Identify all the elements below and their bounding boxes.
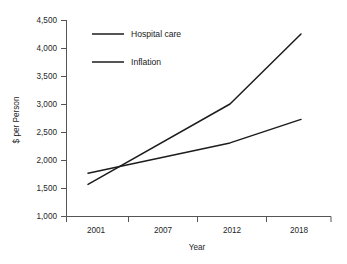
legend-label-inflation: Inflation [131,57,161,67]
series-line-inflation [88,119,301,173]
line-chart: 4,500 4,000 3,500 3,000 2,500 2,000 1,50… [0,0,347,264]
x-axis-ticks [67,217,332,223]
series-line-hospital-care [88,34,301,184]
y-tick-label: 2,000 [37,156,58,165]
x-axis-title: Year [189,243,206,252]
y-tick-label: 4,500 [37,16,58,25]
y-axis-title: $ per Person [12,96,21,143]
y-tick-label: 4,000 [37,44,58,53]
legend-label-hospital-care: Hospital care [131,29,181,39]
y-axis-ticks [61,21,67,217]
chart-canvas: 4,500 4,000 3,500 3,000 2,500 2,000 1,50… [0,0,347,264]
x-tick-label: 2001 [87,226,106,235]
x-tick-label: 2018 [290,226,309,235]
x-axis-tick-labels: 2001 2007 2012 2018 [87,226,309,235]
x-tick-label: 2012 [223,226,242,235]
x-tick-label: 2007 [154,226,173,235]
y-tick-label: 3,500 [37,72,58,81]
y-tick-label: 1,000 [37,212,58,221]
y-axis-tick-labels: 4,500 4,000 3,500 3,000 2,500 2,000 1,50… [37,16,58,221]
y-tick-label: 1,500 [37,184,58,193]
y-tick-label: 3,000 [37,100,58,109]
chart-legend: Hospital care Inflation [92,29,181,67]
y-tick-label: 2,500 [37,128,58,137]
